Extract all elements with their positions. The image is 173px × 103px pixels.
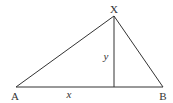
- vertex-label-x: X: [110, 3, 118, 15]
- triangle-diagram: X A B y x: [0, 0, 173, 103]
- side-ax: [16, 16, 114, 87]
- vertex-label-b: B: [159, 90, 166, 102]
- side-xb: [114, 16, 163, 87]
- height-label-y: y: [103, 50, 109, 62]
- base-label-x: x: [66, 88, 72, 100]
- vertex-label-a: A: [11, 90, 19, 102]
